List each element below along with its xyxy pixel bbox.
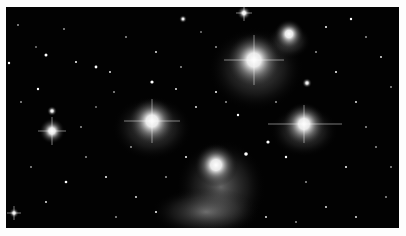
- starfield-image: [6, 7, 399, 228]
- bright-stars: [9, 7, 326, 218]
- star-cluster-graphic: [6, 7, 399, 228]
